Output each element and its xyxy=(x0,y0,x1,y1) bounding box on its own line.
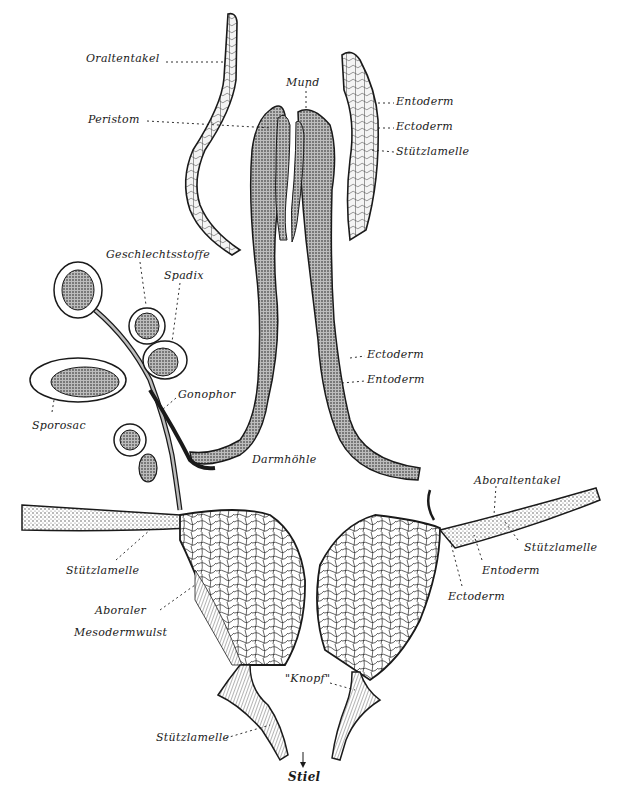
label-entoderm-bottom: Entoderm xyxy=(482,564,540,577)
label-sporosac: Sporosac xyxy=(32,419,86,432)
figure-stage: Oraltentakel Mund Peristom Entoderm Ecto… xyxy=(0,0,628,803)
label-ectoderm-bottom: Ectoderm xyxy=(448,590,505,603)
label-knopf: "Knopf" xyxy=(285,672,330,685)
label-gonophor: Gonophor xyxy=(178,388,236,401)
aboral-tentacle-left xyxy=(22,505,190,531)
label-peristom: Peristom xyxy=(88,113,140,126)
label-ectoderm-mid: Ectoderm xyxy=(367,348,424,361)
aboral-mass-right xyxy=(317,515,440,680)
label-ectoderm-top: Ectoderm xyxy=(396,120,453,133)
label-mesodermwulst: Mesodermwulst xyxy=(74,626,167,639)
label-entoderm-top: Entoderm xyxy=(396,95,454,108)
oral-tentacle-left xyxy=(186,14,240,255)
label-mund: Mund xyxy=(286,76,320,89)
gonophore-cluster xyxy=(30,262,215,510)
label-aboraler: Aboraler xyxy=(95,604,146,617)
oral-tentacle-right xyxy=(342,52,378,240)
body-wall-left xyxy=(190,106,286,464)
label-stuetzlamelle-left: Stützlamelle xyxy=(66,564,139,577)
manubrium-folds xyxy=(276,115,305,242)
label-stiel: Stiel xyxy=(288,770,320,784)
label-entoderm-mid: Entoderm xyxy=(367,373,425,386)
label-stuetzlamelle-stalk: Stützlamelle xyxy=(156,731,229,744)
label-stuetzlamelle-right: Stützlamelle xyxy=(524,541,597,554)
aboral-tentacle-right xyxy=(428,488,600,548)
label-spadix: Spadix xyxy=(164,269,204,282)
label-aboraltentakel: Aboraltentakel xyxy=(474,474,561,487)
label-darmhoehle: Darmhöhle xyxy=(252,453,317,466)
aboral-mass-left xyxy=(180,510,305,665)
label-geschlechtsstoffe: Geschlechtsstoffe xyxy=(106,248,210,261)
label-stuetzlamelle-top: Stützlamelle xyxy=(396,145,469,158)
label-oraltentakel: Oraltentakel xyxy=(86,52,160,65)
stalk-arrow-icon xyxy=(300,752,306,768)
